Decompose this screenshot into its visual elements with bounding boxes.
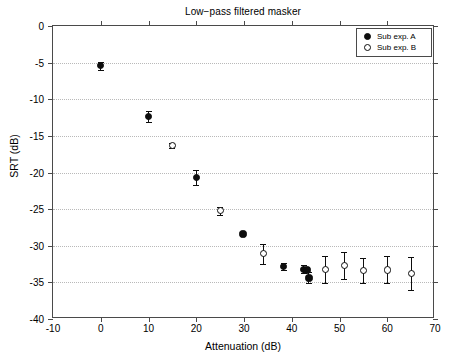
filled-circle-marker <box>193 174 200 181</box>
x-axis-label: Attenuation (dB) <box>52 340 434 352</box>
open-circle-icon <box>362 42 374 53</box>
x-tick-label-30: 30 <box>238 323 249 334</box>
plot-area: 0-5-10-15-20-25-30-35-40 -10010203040506… <box>52 25 434 318</box>
error-bar-cap-lower <box>322 283 328 284</box>
error-bar-cap-lower <box>360 283 366 284</box>
y-tick-right-0 <box>433 26 438 27</box>
y-tick--10 <box>48 99 53 100</box>
x-tick-label-60: 60 <box>382 323 393 334</box>
error-bar-cap-upper <box>260 244 266 245</box>
y-tick--30 <box>48 246 53 247</box>
x-tick-top-0 <box>101 21 102 26</box>
error-bar-cap-lower <box>260 264 266 265</box>
y-tick--5 <box>48 63 53 64</box>
gridline-y--20 <box>53 173 433 174</box>
y-tick-label-0: 0 <box>38 21 44 32</box>
y-tick-label--35: -35 <box>30 277 44 288</box>
filled-circle-marker <box>239 230 246 237</box>
open-circle-marker <box>384 266 391 273</box>
y-tick-right--35 <box>433 282 438 283</box>
gridline-y--10 <box>53 99 433 100</box>
x-tick-top-40 <box>292 21 293 26</box>
x-tick-label-0: 0 <box>98 323 104 334</box>
filled-circle-marker <box>145 113 152 120</box>
y-tick-label--15: -15 <box>30 130 44 141</box>
error-bar-cap-lower <box>306 283 312 284</box>
x-tick-60 <box>387 317 388 322</box>
filled-circle-marker <box>97 62 104 69</box>
y-tick-label--10: -10 <box>30 94 44 105</box>
error-bar-cap-upper <box>341 252 347 253</box>
error-bar-cap-upper <box>322 256 328 257</box>
error-bar-cap-upper <box>408 257 414 258</box>
x-tick-20 <box>196 317 197 322</box>
open-circle-marker <box>217 207 224 214</box>
x-tick-0 <box>101 317 102 322</box>
error-bar-cap-lower <box>146 122 152 123</box>
error-bar-cap-lower <box>408 290 414 291</box>
y-tick--25 <box>48 209 53 210</box>
open-circle-marker <box>341 262 348 269</box>
x-tick-top-60 <box>387 21 388 26</box>
x-tick-label--10: -10 <box>46 323 60 334</box>
x-tick-label-20: 20 <box>191 323 202 334</box>
y-tick-right--5 <box>433 63 438 64</box>
error-bar-cap-lower <box>217 215 223 216</box>
gridline-y--35 <box>53 282 433 283</box>
y-tick-right--10 <box>433 99 438 100</box>
open-circle-marker <box>322 266 329 273</box>
chart-title: Low−pass filtered masker <box>52 6 434 17</box>
legend-marker <box>364 44 371 51</box>
filled-circle-icon <box>362 31 374 42</box>
chart-legend: Sub exp. ASub exp. B <box>356 28 432 57</box>
y-tick-label--20: -20 <box>30 167 44 178</box>
y-tick-right--15 <box>433 136 438 137</box>
x-tick-label-50: 50 <box>334 323 345 334</box>
x-tick-top-30 <box>244 21 245 26</box>
y-tick-right--30 <box>433 246 438 247</box>
legend-label: Sub exp. A <box>377 32 416 41</box>
x-tick-top-10 <box>149 21 150 26</box>
filled-circle-marker <box>305 274 312 281</box>
open-circle-marker <box>260 250 267 257</box>
legend-marker <box>364 33 371 40</box>
gridline-y--30 <box>53 246 433 247</box>
error-bar-cap-lower <box>98 70 104 71</box>
y-tick-label--5: -5 <box>35 57 44 68</box>
gridline-y--25 <box>53 209 433 210</box>
error-bar-cap-upper <box>146 111 152 112</box>
open-circle-marker <box>169 142 176 149</box>
y-tick-right--25 <box>433 209 438 210</box>
x-tick-label-10: 10 <box>143 323 154 334</box>
y-axis-label: SRT (dB) <box>8 134 20 177</box>
gridline-y--15 <box>53 136 433 137</box>
error-bar-cap-upper <box>360 258 366 259</box>
y-tick-right--20 <box>433 173 438 174</box>
gridline-y--5 <box>53 63 433 64</box>
x-tick-label-70: 70 <box>429 323 440 334</box>
y-tick--35 <box>48 282 53 283</box>
error-bar-cap-lower <box>341 279 347 280</box>
legend-label: Sub exp. B <box>377 43 416 52</box>
x-tick-30 <box>244 317 245 322</box>
y-tick-label--40: -40 <box>30 314 44 325</box>
y-tick-right--40 <box>433 319 438 320</box>
x-tick-40 <box>292 317 293 322</box>
x-tick-label-40: 40 <box>286 323 297 334</box>
y-tick-0 <box>48 26 53 27</box>
x-tick-50 <box>340 317 341 322</box>
x-tick-top-50 <box>340 21 341 26</box>
open-circle-marker <box>360 267 367 274</box>
legend-item-sub-exp-a: Sub exp. A <box>357 31 431 42</box>
legend-item-sub-exp-b: Sub exp. B <box>357 42 431 53</box>
error-bar-cap-upper <box>306 272 312 273</box>
y-tick--40 <box>48 319 53 320</box>
y-tick--20 <box>48 173 53 174</box>
y-tick--15 <box>48 136 53 137</box>
x-tick-10 <box>149 317 150 322</box>
filled-circle-marker <box>280 263 287 270</box>
x-tick-top-20 <box>196 21 197 26</box>
y-tick-label--30: -30 <box>30 240 44 251</box>
open-circle-marker <box>408 270 415 277</box>
error-bar-cap-upper <box>193 170 199 171</box>
